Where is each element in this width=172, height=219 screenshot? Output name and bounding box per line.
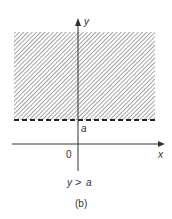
origin-label: 0 — [66, 149, 72, 160]
x-axis-label: x — [157, 149, 164, 160]
y-axis-label: y — [83, 16, 90, 27]
inequality-rhs: a — [86, 177, 92, 188]
inequality-diagram: y x 0 a y > a (b) — [0, 0, 172, 219]
figure-caption: (b) — [75, 198, 87, 209]
shaded-region — [14, 32, 155, 120]
inequality-lhs: y — [66, 177, 73, 188]
inequality-operator: > — [75, 176, 81, 188]
y-axis-arrow-icon — [75, 18, 81, 26]
boundary-label: a — [81, 123, 87, 134]
x-axis-arrow-icon — [158, 141, 165, 147]
